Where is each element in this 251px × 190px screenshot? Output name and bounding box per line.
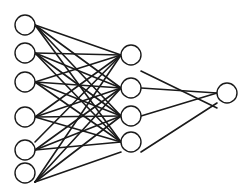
connection-line — [35, 53, 121, 55]
input-node-1 — [15, 15, 35, 35]
connection-line — [35, 55, 121, 182]
neural-network-diagram — [0, 0, 251, 190]
hidden-node-1 — [121, 45, 141, 65]
connection-line — [141, 93, 217, 116]
connection-line — [35, 55, 121, 117]
connection-line — [141, 103, 217, 152]
input-node-3 — [15, 72, 35, 92]
input-node-5 — [15, 140, 35, 160]
input-node-6 — [15, 163, 35, 183]
input-node-4 — [15, 107, 35, 127]
hidden-node-2 — [121, 78, 141, 98]
connection-line — [35, 25, 121, 55]
hidden-node-4 — [121, 132, 141, 152]
output-node-1 — [217, 83, 237, 103]
connection-line — [35, 116, 121, 117]
input-node-2 — [15, 43, 35, 63]
hidden-node-3 — [121, 106, 141, 126]
